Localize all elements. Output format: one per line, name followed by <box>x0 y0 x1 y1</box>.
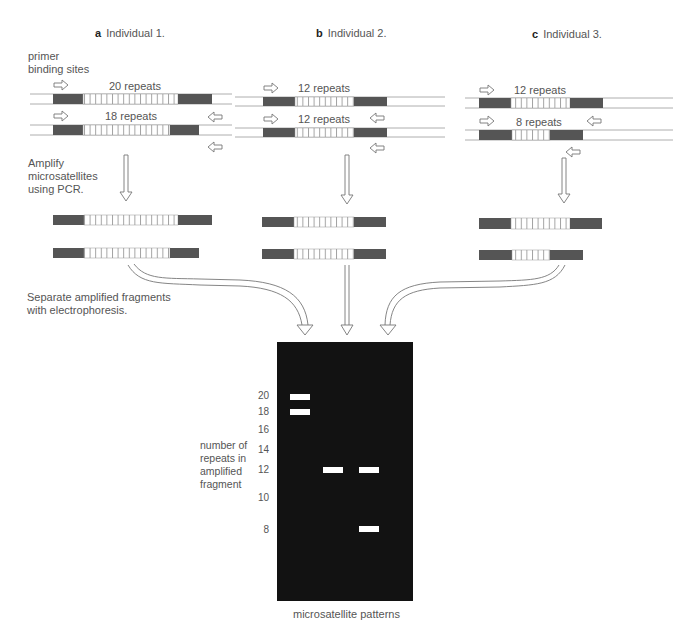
panel-c-allele-2-label: 8 repeats <box>516 116 562 129</box>
tick-12: 12 <box>245 464 269 475</box>
tick-8: 8 <box>245 524 269 535</box>
electrophoresis-gel <box>277 342 413 601</box>
tick-10: 10 <box>245 492 269 503</box>
band-lane3-8 <box>359 526 379 532</box>
panel-b-allele-2-label: 12 repeats <box>298 113 350 126</box>
panel-a-allele-1-label: 20 repeats <box>109 80 161 93</box>
band-lane1-20 <box>290 394 310 400</box>
panel-c-fragments <box>479 218 602 260</box>
panel-a-fragments <box>53 215 212 258</box>
panel-b-allele-1-label: 12 repeats <box>298 82 350 95</box>
gel-caption: microsatellite patterns <box>293 608 400 621</box>
tick-18: 18 <box>245 406 269 417</box>
panel-b-fragments <box>262 217 386 259</box>
pcr-arrows <box>120 155 570 204</box>
panel-c-allele-1-label: 12 repeats <box>514 84 566 97</box>
band-lane2-12 <box>323 467 343 473</box>
band-lane3-12 <box>359 467 379 473</box>
electrophoresis-arrows <box>128 264 565 335</box>
tick-14: 14 <box>245 444 269 455</box>
tick-20: 20 <box>245 390 269 401</box>
panel-a-allele-2-label: 18 repeats <box>105 110 157 123</box>
tick-16: 16 <box>245 424 269 435</box>
panel-c-genomic <box>465 98 673 140</box>
band-lane1-18 <box>290 409 310 415</box>
